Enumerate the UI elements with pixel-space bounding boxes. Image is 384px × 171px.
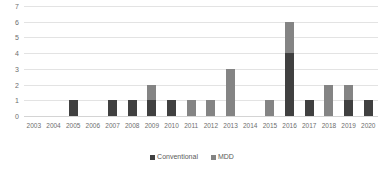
bar-segment-conventional — [285, 53, 294, 116]
x-axis-tick-label: 2006 — [83, 120, 103, 132]
x-axis-tick-label: 2010 — [162, 120, 182, 132]
x-axis-tick-label: 2009 — [142, 120, 162, 132]
bar-group-2003 — [24, 6, 44, 116]
y-axis-tick-label: 5 — [15, 34, 19, 41]
y-axis-tick-label: 1 — [15, 97, 19, 104]
bar-segment-mdd — [206, 100, 215, 116]
bar-group-2016 — [280, 6, 300, 116]
grid-area — [24, 6, 378, 116]
legend-swatch-icon — [211, 155, 216, 160]
bar-group-2018 — [319, 6, 339, 116]
legend-label: Conventional — [157, 153, 198, 161]
x-axis: 2003200420052006200720082009201020112012… — [24, 120, 378, 132]
bar-group-2014 — [240, 6, 260, 116]
x-axis-tick-label: 2013 — [221, 120, 241, 132]
bars-layer — [24, 6, 378, 116]
bar-stack — [147, 85, 156, 116]
bar-group-2017 — [299, 6, 319, 116]
bar-segment-conventional — [364, 100, 373, 116]
plot-area: 76543210 — [0, 6, 384, 116]
y-axis-tick-label: 2 — [15, 81, 19, 88]
bar-stack — [305, 100, 314, 116]
x-axis-tick-label: 2018 — [319, 120, 339, 132]
bar-stack — [265, 100, 274, 116]
bar-segment-conventional — [128, 100, 137, 116]
bar-group-2010 — [162, 6, 182, 116]
bar-segment-conventional — [305, 100, 314, 116]
x-axis-tick-label: 2017 — [299, 120, 319, 132]
legend-item-mdd[interactable]: MDD — [211, 153, 234, 161]
bar-group-2004 — [44, 6, 64, 116]
bar-group-2015 — [260, 6, 280, 116]
x-axis-tick-label: 2019 — [339, 120, 359, 132]
bar-group-2013 — [221, 6, 241, 116]
bar-segment-conventional — [108, 100, 117, 116]
bar-stack — [108, 100, 117, 116]
x-axis-tick-label: 2015 — [260, 120, 280, 132]
bar-segment-mdd — [285, 22, 294, 53]
bar-segment-conventional — [69, 100, 78, 116]
x-axis-tick-label: 2012 — [201, 120, 221, 132]
bar-segment-mdd — [324, 85, 333, 116]
bar-stack — [344, 85, 353, 116]
bar-group-2006 — [83, 6, 103, 116]
y-axis-tick-label: 3 — [15, 65, 19, 72]
x-axis-tick-label: 2020 — [358, 120, 378, 132]
bar-stack — [324, 85, 333, 116]
y-axis-tick-label: 4 — [15, 50, 19, 57]
y-axis: 76543210 — [0, 6, 22, 116]
bar-segment-mdd — [147, 85, 156, 101]
bar-segment-mdd — [265, 100, 274, 116]
y-axis-tick-label: 7 — [15, 3, 19, 10]
bar-stack — [285, 22, 294, 116]
y-axis-tick-label: 6 — [15, 18, 19, 25]
bar-segment-mdd — [226, 69, 235, 116]
bar-group-2011 — [181, 6, 201, 116]
legend-swatch-icon — [150, 155, 155, 160]
x-axis-tick-label: 2014 — [240, 120, 260, 132]
bar-group-2009 — [142, 6, 162, 116]
bar-stack — [206, 100, 215, 116]
gridline — [24, 116, 378, 117]
bar-group-2012 — [201, 6, 221, 116]
bar-group-2007 — [103, 6, 123, 116]
bar-stack — [187, 100, 196, 116]
bar-stack — [128, 100, 137, 116]
x-axis-tick-label: 2016 — [280, 120, 300, 132]
x-axis-tick-label: 2003 — [24, 120, 44, 132]
x-axis-tick-label: 2007 — [103, 120, 123, 132]
bar-stack — [167, 100, 176, 116]
legend-label: MDD — [218, 153, 234, 161]
bar-segment-mdd — [344, 85, 353, 101]
bar-segment-conventional — [147, 100, 156, 116]
x-axis-tick-label: 2011 — [181, 120, 201, 132]
x-axis-tick-label: 2008 — [122, 120, 142, 132]
x-axis-tick-label: 2004 — [44, 120, 64, 132]
bar-segment-mdd — [187, 100, 196, 116]
bar-group-2019 — [339, 6, 359, 116]
stacked-bar-chart: 76543210 2003200420052006200720082009201… — [0, 0, 384, 171]
bar-group-2005 — [63, 6, 83, 116]
bar-segment-conventional — [344, 100, 353, 116]
bar-stack — [364, 100, 373, 116]
bar-segment-conventional — [167, 100, 176, 116]
y-axis-tick-label: 0 — [15, 113, 19, 120]
bar-stack — [69, 100, 78, 116]
bar-stack — [226, 69, 235, 116]
bar-group-2008 — [122, 6, 142, 116]
chart-legend: ConventionalMDD — [0, 150, 384, 164]
legend-item-conventional[interactable]: Conventional — [150, 153, 198, 161]
x-axis-tick-label: 2005 — [63, 120, 83, 132]
bar-group-2020 — [358, 6, 378, 116]
